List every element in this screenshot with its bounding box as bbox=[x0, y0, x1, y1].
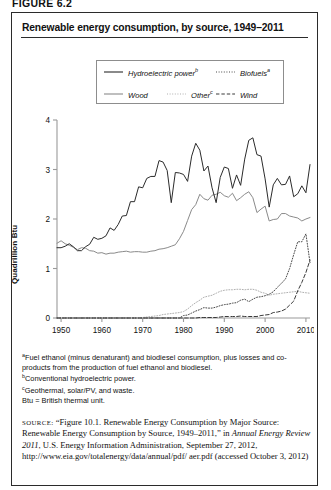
legend-swatch-dashed-dark-icon bbox=[216, 90, 235, 98]
legend-item-wind: Wind bbox=[216, 89, 257, 100]
legend-swatch-solid-gray-icon bbox=[104, 90, 123, 98]
legend-label-wood: Wood bbox=[128, 89, 148, 100]
legend-row-1: Hydroelectric powerb Biofuelsa bbox=[97, 61, 283, 83]
svg-text:1950: 1950 bbox=[52, 326, 71, 335]
svg-text:3: 3 bbox=[45, 166, 50, 175]
svg-text:1970: 1970 bbox=[134, 326, 153, 335]
legend-label-biofuels: Biofuelsa bbox=[240, 67, 270, 78]
figure-page: FIGURE 6.2 Renewable energy consumption,… bbox=[0, 0, 331, 490]
legend-item-biofuels: Biofuelsa bbox=[216, 67, 270, 78]
svg-text:0: 0 bbox=[45, 314, 50, 323]
legend-swatch-dotted-dark-icon bbox=[216, 68, 235, 76]
y-axis-title: Quadrillion Btu bbox=[10, 225, 19, 284]
legend-label-other: Otherc bbox=[191, 89, 213, 100]
legend-label-hydroelectric-power: Hydroelectric powerb bbox=[128, 67, 198, 78]
svg-text:1990: 1990 bbox=[215, 326, 234, 335]
chart-legend: Hydroelectric powerb Biofuelsa Wood Othe… bbox=[96, 60, 284, 104]
svg-text:1980: 1980 bbox=[174, 326, 193, 335]
legend-item-other: Otherc bbox=[167, 89, 216, 100]
source-text-2: , U.S. Energy Information Administration… bbox=[22, 440, 308, 461]
svg-text:1: 1 bbox=[45, 265, 50, 274]
legend-item-wood: Wood bbox=[104, 89, 167, 100]
chart-plot: 012341950196019701980199020002010 bbox=[14, 106, 314, 346]
svg-text:2000: 2000 bbox=[256, 326, 275, 335]
legend-swatch-solid-black-icon bbox=[104, 68, 123, 76]
figure-label: FIGURE 6.2 bbox=[12, 0, 72, 9]
svg-text:1960: 1960 bbox=[93, 326, 112, 335]
footnote-c: cGeothermal, solar/PV, and waste. bbox=[22, 384, 310, 396]
footnotes: aFuel ethanol (minus denaturant) and bio… bbox=[22, 351, 310, 405]
legend-label-wind: Wind bbox=[240, 89, 257, 100]
chart-area: Quadrillion Btu 012341950196019701980199… bbox=[14, 106, 314, 350]
legend-swatch-dotted-light-icon bbox=[167, 90, 186, 98]
footnote-b: bConventional hydroelectric power. bbox=[22, 372, 310, 384]
footnote-a: aFuel ethanol (minus denaturant) and bio… bbox=[22, 351, 310, 372]
svg-text:4: 4 bbox=[45, 116, 50, 125]
footnote-btu: Btu = British thermal unit. bbox=[22, 396, 310, 405]
svg-text:2010: 2010 bbox=[297, 326, 314, 335]
legend-item-hydroelectric-power: Hydroelectric powerb bbox=[104, 67, 216, 78]
legend-row-2: Wood Otherc Wind bbox=[97, 83, 283, 105]
figure-title: Renewable energy consumption, by source,… bbox=[22, 22, 307, 33]
title-divider bbox=[21, 37, 308, 38]
source-label: SOURCE: bbox=[22, 419, 54, 426]
source-citation: SOURCE: “Figure 10.1. Renewable Energy C… bbox=[22, 417, 312, 462]
svg-text:2: 2 bbox=[45, 215, 50, 224]
